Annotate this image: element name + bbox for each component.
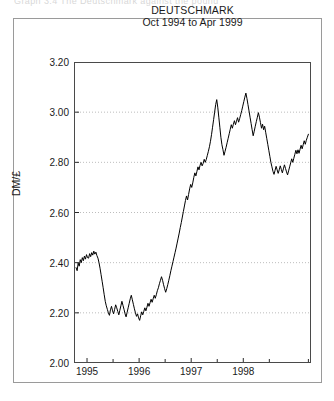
x-tick-label: 1995 <box>76 366 98 377</box>
chart-subtitle: Oct 1994 to Apr 1999 <box>74 16 311 28</box>
y-tick-label: 3.20 <box>25 57 69 68</box>
x-axis-tick-labels: 1995199619971998 <box>74 366 311 382</box>
series-line-dm-per-gbp <box>76 93 308 320</box>
y-axis-title: DM/£ <box>10 171 22 196</box>
y-tick-label: 3.00 <box>25 107 69 118</box>
x-tick-label: 1997 <box>180 366 202 377</box>
x-tick-label: 1998 <box>232 366 254 377</box>
line-chart-svg <box>74 62 311 363</box>
chart-title: DEUTSCHMARK <box>74 4 311 16</box>
y-tick-label: 2.60 <box>25 207 69 218</box>
y-tick-label: 2.80 <box>25 157 69 168</box>
y-axis-tick-labels: 3.203.002.802.602.402.202.00 <box>24 62 69 363</box>
x-tick-label: 1996 <box>128 366 150 377</box>
y-tick-label: 2.00 <box>25 358 69 369</box>
gridlines <box>74 62 311 313</box>
plot-area <box>74 62 311 363</box>
y-tick-label: 2.20 <box>25 307 69 318</box>
y-tick-label: 2.40 <box>25 257 69 268</box>
chart-title-block: DEUTSCHMARK Oct 1994 to Apr 1999 <box>74 4 311 29</box>
